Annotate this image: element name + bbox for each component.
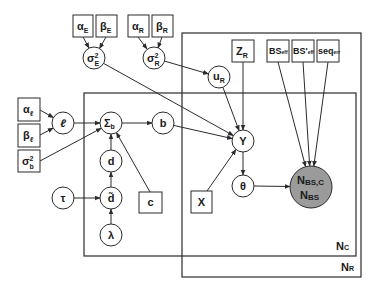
edge-betal-ell [40,128,53,135]
edge-alphal-ell [40,110,53,118]
plate-nr [182,33,361,277]
edge-seqerr-NBS [314,62,328,166]
node-Y: Y [232,130,254,152]
svg-text:θ: θ [240,180,246,192]
node-sigma2-R: σ2R [143,47,165,69]
svg-text:d: d [108,155,115,167]
edges [40,37,328,224]
edge-sigma2R-uR [165,61,209,74]
node-alpha-E: αE [73,15,93,37]
svg-text:b: b [160,117,167,129]
edge-betaR-sigma2R [158,37,162,48]
svg-text:ℓ: ℓ [60,117,66,129]
edge-BSprimeeff-NBS [303,62,310,166]
node-theta: θ [232,175,254,197]
node-sigma2-E: σ2E [83,47,105,69]
node-ell: ℓ [52,112,74,134]
node-BSprime-eff: BS'eff [292,40,314,62]
node-c: c [139,192,162,213]
edge-theta-NBS [254,186,290,187]
edge-BSeff-NBS [278,62,306,167]
node-BS-eff: BSeff [267,40,289,62]
edge-alphaR-sigma2R [138,37,147,49]
node-beta-E: βE [96,15,117,37]
node-X: X [191,191,212,213]
node-tau: τ [52,187,74,209]
edge-betaE-sigma2E [100,37,107,49]
svg-text:X: X [198,196,206,208]
svg-text:Y: Y [239,135,247,147]
node-b: b [152,112,174,134]
node-Sigma-b: Σb [100,112,122,134]
node-beta-ell: βℓ [18,124,40,147]
node-N-BS-observed: NBS,C NBS [290,166,332,208]
node-Z-R: ZR [232,40,254,62]
svg-text:d̃: d̃ [108,192,115,204]
plate-nr-label: NR [341,261,354,273]
node-d-tilde: d̃ [100,187,122,209]
svg-text:τ: τ [61,192,66,204]
edge-sigma2b-Sigmab [40,128,101,161]
node-alpha-R: αR [128,15,149,37]
plate-nc-label: NC [336,240,349,252]
node-lambda: λ [100,224,122,246]
node-beta-R: βR [152,15,173,37]
node-alpha-ell: αℓ [18,98,40,121]
node-sigma2-b: σ2b [18,150,40,172]
node-u-R: uR [208,66,230,88]
graphical-model-diagram: NC NR αE βE αR [0,0,375,293]
svg-text:c: c [147,196,153,208]
svg-text:λ: λ [108,229,114,241]
edge-alphaE-sigma2E [83,37,89,48]
node-seq-err: seqerr [317,40,340,62]
node-d: d [100,150,122,172]
edge-uR-Y [223,87,239,130]
